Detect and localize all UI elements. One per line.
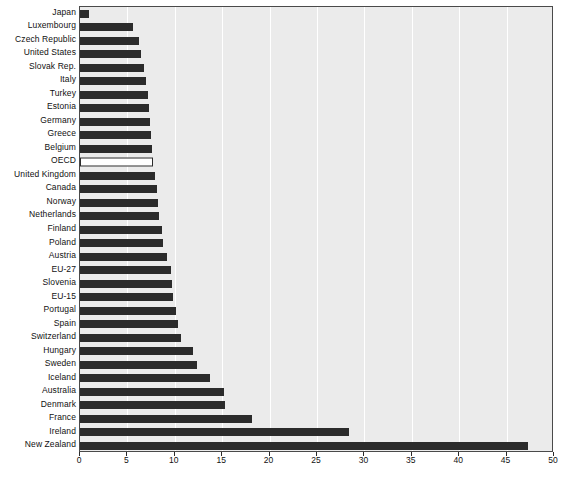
- y-axis-label-luxembourg: Luxembourg: [0, 21, 76, 30]
- bar-oecd: [80, 158, 153, 167]
- y-axis-label-czech-republic: Czech Republic: [0, 35, 76, 44]
- bar-greece: [80, 131, 151, 139]
- x-axis-label-30: 30: [359, 456, 368, 465]
- y-axis-label-united-states: United States: [0, 48, 76, 57]
- y-axis-label-united-kingdom: United Kingdom: [0, 170, 76, 179]
- y-axis-label-oecd: OECD: [0, 156, 76, 165]
- bar-poland: [80, 239, 163, 247]
- bar-row: [80, 264, 552, 278]
- bar-row: [80, 372, 552, 386]
- bar-row: [80, 426, 552, 440]
- y-axis-label-hungary: Hungary: [0, 346, 76, 355]
- x-axis-label-50: 50: [548, 456, 557, 465]
- y-axis-label-germany: Germany: [0, 116, 76, 125]
- y-axis-label-new-zealand: New Zealand: [0, 440, 76, 449]
- bar-row: [80, 277, 552, 291]
- y-axis-label-poland: Poland: [0, 238, 76, 247]
- bar-slovak-rep: [80, 64, 144, 72]
- bar-row: [80, 412, 552, 426]
- bar-row: [80, 61, 552, 75]
- plot-area: [79, 6, 553, 452]
- y-axis-label-slovenia: Slovenia: [0, 278, 76, 287]
- bar-germany: [80, 118, 150, 126]
- bar-eu-27: [80, 266, 171, 274]
- bar-slovenia: [80, 280, 172, 288]
- bar-row: [80, 21, 552, 35]
- bar-luxembourg: [80, 23, 133, 31]
- y-axis-label-switzerland: Switzerland: [0, 332, 76, 341]
- bar-row: [80, 210, 552, 224]
- bar-row: [80, 223, 552, 237]
- y-axis-labels: JapanLuxembourgCzech RepublicUnited Stat…: [0, 6, 76, 452]
- bar-row: [80, 318, 552, 332]
- bar-netherlands: [80, 212, 159, 220]
- bar-row: [80, 385, 552, 399]
- bar-denmark: [80, 401, 225, 409]
- bar-row: [80, 7, 552, 21]
- bar-row: [80, 237, 552, 251]
- bar-row: [80, 88, 552, 102]
- bar-japan: [80, 10, 89, 18]
- x-axis-label-10: 10: [169, 456, 178, 465]
- bar-ireland: [80, 428, 349, 436]
- bar-turkey: [80, 91, 148, 99]
- bar-row: [80, 291, 552, 305]
- bar-row: [80, 250, 552, 264]
- bar-norway: [80, 199, 158, 207]
- bar-italy: [80, 77, 146, 85]
- x-axis-label-25: 25: [311, 456, 320, 465]
- y-axis-label-greece: Greece: [0, 129, 76, 138]
- y-axis-label-eu-27: EU-27: [0, 265, 76, 274]
- y-axis-label-sweden: Sweden: [0, 359, 76, 368]
- bar-sweden: [80, 361, 197, 369]
- x-axis-label-5: 5: [124, 456, 129, 465]
- bar-row: [80, 331, 552, 345]
- x-axis-label-15: 15: [216, 456, 225, 465]
- bar-row: [80, 183, 552, 197]
- bar-row: [80, 196, 552, 210]
- bar-row: [80, 345, 552, 359]
- x-axis-label-20: 20: [264, 456, 273, 465]
- x-axis-labels: 05101520253035404550: [0, 456, 563, 476]
- bar-row: [80, 75, 552, 89]
- bar-series: [80, 7, 552, 451]
- bar-row: [80, 156, 552, 170]
- bar-chart: JapanLuxembourgCzech RepublicUnited Stat…: [0, 0, 563, 482]
- x-axis-label-45: 45: [501, 456, 510, 465]
- bar-united-kingdom: [80, 172, 155, 180]
- y-axis-label-austria: Austria: [0, 251, 76, 260]
- y-axis-label-slovak-rep: Slovak Rep.: [0, 62, 76, 71]
- y-axis-label-denmark: Denmark: [0, 400, 76, 409]
- y-axis-label-estonia: Estonia: [0, 102, 76, 111]
- bar-czech-republic: [80, 37, 139, 45]
- x-axis-label-35: 35: [406, 456, 415, 465]
- y-axis-label-turkey: Turkey: [0, 89, 76, 98]
- bar-row: [80, 34, 552, 48]
- y-axis-label-netherlands: Netherlands: [0, 210, 76, 219]
- y-axis-label-norway: Norway: [0, 197, 76, 206]
- bar-united-states: [80, 50, 141, 58]
- bar-austria: [80, 253, 167, 261]
- y-axis-label-australia: Australia: [0, 386, 76, 395]
- bar-australia: [80, 388, 224, 396]
- y-axis-label-portugal: Portugal: [0, 305, 76, 314]
- bar-belgium: [80, 145, 152, 153]
- bar-row: [80, 358, 552, 372]
- bar-eu-15: [80, 293, 173, 301]
- bar-finland: [80, 226, 162, 234]
- bar-spain: [80, 320, 178, 328]
- x-axis-label-40: 40: [453, 456, 462, 465]
- bar-portugal: [80, 307, 176, 315]
- bar-row: [80, 48, 552, 62]
- y-axis-label-italy: Italy: [0, 75, 76, 84]
- y-axis-label-canada: Canada: [0, 183, 76, 192]
- y-axis-label-finland: Finland: [0, 224, 76, 233]
- y-axis-label-belgium: Belgium: [0, 143, 76, 152]
- y-axis-label-france: France: [0, 413, 76, 422]
- y-axis-label-ireland: Ireland: [0, 427, 76, 436]
- bar-row: [80, 399, 552, 413]
- bar-hungary: [80, 347, 193, 355]
- bar-iceland: [80, 374, 210, 382]
- bar-row: [80, 142, 552, 156]
- x-axis-label-0: 0: [77, 456, 82, 465]
